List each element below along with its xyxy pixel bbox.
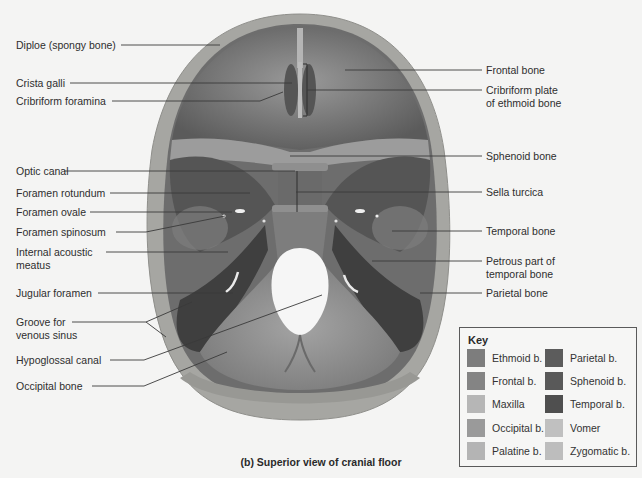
label-foramen-ovale: Foramen ovale — [16, 206, 86, 219]
label-cribriform-plate: Cribriform plate of ethmoid bone — [486, 84, 561, 109]
swatch-maxilla — [467, 395, 485, 413]
label-cribriform-foramina: Cribriform foramina — [16, 95, 106, 108]
key-item-vomer: Vomer — [545, 419, 600, 437]
key-item-frontal: Frontal b. — [467, 372, 536, 390]
figure-caption: (b) Superior view of cranial floor — [0, 456, 642, 468]
swatch-temporal — [545, 395, 563, 413]
cranial-floor-figure: Diploe (spongy bone) Crista galli Cribri… — [0, 0, 642, 478]
key-item-parietal: Parietal b. — [545, 349, 617, 367]
label-foramen-spinosum: Foramen spinosum — [16, 226, 106, 239]
swatch-occipital — [467, 419, 485, 437]
key-label-occipital: Occipital b. — [492, 422, 544, 434]
label-petrous-part: Petrous part of temporal bone — [486, 255, 555, 280]
key-item-sphenoid: Sphenoid b. — [545, 372, 626, 390]
key-label-vomer: Vomer — [570, 422, 600, 434]
label-temporal-bone: Temporal bone — [486, 225, 555, 238]
label-jugular-foramen: Jugular foramen — [16, 287, 92, 300]
label-parietal-bone: Parietal bone — [486, 287, 548, 300]
swatch-sphenoid — [545, 372, 563, 390]
key-item-ethmoid: Ethmoid b. — [467, 349, 542, 367]
label-groove-venous-sinus: Groove for venous sinus — [16, 316, 77, 341]
key-title: Key — [468, 334, 488, 346]
label-crista-galli: Crista galli — [16, 77, 65, 90]
label-internal-acoustic-meatus: Internal acoustic meatus — [16, 246, 92, 271]
label-hypoglossal-canal: Hypoglossal canal — [16, 354, 101, 367]
key-item-temporal: Temporal b. — [545, 395, 625, 413]
label-foramen-rotundum: Foramen rotundum — [16, 187, 105, 200]
key-label-maxilla: Maxilla — [492, 398, 525, 410]
color-key: Key Ethmoid b. Frontal b. Maxilla Occipi… — [459, 327, 637, 467]
key-label-sphenoid: Sphenoid b. — [570, 375, 626, 387]
key-label-frontal: Frontal b. — [492, 375, 536, 387]
label-occipital-bone: Occipital bone — [16, 380, 83, 393]
label-sella-turcica: Sella turcica — [486, 186, 543, 199]
key-item-maxilla: Maxilla — [467, 395, 525, 413]
label-optic-canal: Optic canal — [16, 165, 69, 178]
label-sphenoid-bone: Sphenoid bone — [486, 150, 557, 163]
key-item-occipital: Occipital b. — [467, 419, 544, 437]
label-diploe: Diploe (spongy bone) — [16, 39, 116, 52]
swatch-ethmoid — [467, 349, 485, 367]
label-frontal-bone: Frontal bone — [486, 64, 545, 77]
swatch-vomer — [545, 419, 563, 437]
swatch-frontal — [467, 372, 485, 390]
key-label-temporal: Temporal b. — [570, 398, 625, 410]
key-label-parietal: Parietal b. — [570, 352, 617, 364]
swatch-parietal — [545, 349, 563, 367]
key-label-ethmoid: Ethmoid b. — [492, 352, 542, 364]
